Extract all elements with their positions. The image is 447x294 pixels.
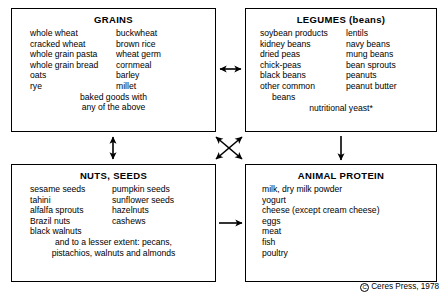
box-legumes-columns: soybean products kidney beans dried peas… (246, 28, 436, 102)
list-item: black beans (260, 70, 346, 81)
list-item: navy beans (346, 39, 431, 50)
box-nuts-seeds: NUTS, SEEDS sesame seeds tahini alfalfa … (11, 164, 216, 282)
box-nuts-seeds-column-2: pumpkin seeds sunflower seeds hazelnuts … (112, 184, 207, 226)
list-item: cracked wheat (30, 39, 116, 50)
list-item: peanuts (346, 70, 431, 81)
list-item: and to a lesser extent: pecans, (12, 237, 215, 248)
list-item: dried peas (260, 49, 346, 60)
list-item: sunflower seeds (112, 195, 207, 206)
box-legumes: LEGUMES (beans) soybean products kidney … (245, 8, 437, 132)
list-item: buckwheat (116, 28, 196, 39)
list-item: cheese (except cream cheese) (262, 205, 436, 216)
list-item: hazelnuts (112, 205, 207, 216)
list-item: cornmeal (116, 60, 196, 71)
protein-complementarity-diagram: GRAINS whole wheat cracked wheat whole g… (0, 0, 447, 294)
box-grains: GRAINS whole wheat cracked wheat whole g… (11, 8, 216, 132)
copyright-notice: CCeres Press, 1978 (360, 282, 439, 292)
list-item: sesame seeds (30, 184, 112, 195)
list-item: meat (262, 226, 436, 237)
list-item: alfalfa sprouts (30, 205, 112, 216)
list-item: any of the above (12, 102, 215, 113)
box-legumes-column-1: soybean products kidney beans dried peas… (246, 28, 346, 102)
box-legumes-title: LEGUMES (beans) (246, 14, 436, 25)
box-nuts-seeds-columns: sesame seeds tahini alfalfa sprouts Braz… (12, 184, 215, 237)
list-item: fish (262, 237, 436, 248)
box-legumes-footer: nutritional yeast* (246, 103, 436, 114)
list-item: lentils (346, 28, 431, 39)
list-item: other common (260, 81, 346, 92)
list-item: barley (116, 70, 196, 81)
list-item: Brazil nuts (30, 216, 112, 227)
list-item: brown rice (116, 39, 196, 50)
list-item: whole grain bread (30, 60, 116, 71)
box-grains-columns: whole wheat cracked wheat whole grain pa… (12, 28, 215, 92)
list-item: nutritional yeast* (246, 103, 436, 114)
box-grains-column-1: whole wheat cracked wheat whole grain pa… (12, 28, 116, 92)
list-item: whole grain pasta (30, 49, 116, 60)
list-item: baked goods with (12, 92, 215, 103)
box-nuts-seeds-title: NUTS, SEEDS (12, 170, 215, 181)
list-item: rye (30, 81, 116, 92)
list-item: peanut butter (346, 81, 431, 92)
list-item: milk, dry milk powder (262, 184, 436, 195)
list-item: eggs (262, 216, 436, 227)
list-item: black walnuts (30, 226, 112, 237)
copyright-text: Ceres Press, 1978 (371, 282, 439, 291)
list-item: chick-peas (260, 60, 346, 71)
list-item: cashews (112, 216, 207, 227)
list-item: kidney beans (260, 39, 346, 50)
list-item: tahini (30, 195, 112, 206)
list-item: mung beans (346, 49, 431, 60)
box-grains-title: GRAINS (12, 14, 215, 25)
arrow-nuts-legumes (216, 137, 242, 159)
box-grains-column-2: buckwheat brown rice wheat germ cornmeal… (116, 28, 196, 92)
list-item: beans (260, 92, 346, 103)
copyright-symbol-icon: C (360, 283, 369, 292)
list-item: soybean products (260, 28, 346, 39)
list-item: millet (116, 81, 196, 92)
box-legumes-column-2: lentils navy beans mung beans bean sprou… (346, 28, 431, 92)
list-item: wheat germ (116, 49, 196, 60)
list-item: yogurt (262, 195, 436, 206)
list-item: poultry (262, 248, 436, 259)
list-item: whole wheat (30, 28, 116, 39)
box-animal-protein: ANIMAL PROTEIN milk, dry milk powder yog… (245, 164, 437, 282)
box-animal-protein-title: ANIMAL PROTEIN (246, 170, 436, 181)
list-item: pumpkin seeds (112, 184, 207, 195)
box-nuts-seeds-footer: and to a lesser extent: pecans, pistachi… (12, 237, 215, 258)
list-item: pistachios, walnuts and almonds (12, 248, 215, 259)
list-item: bean sprouts (346, 60, 431, 71)
box-nuts-seeds-column-1: sesame seeds tahini alfalfa sprouts Braz… (12, 184, 112, 237)
box-animal-protein-column-1: milk, dry milk powder yogurt cheese (exc… (246, 184, 436, 258)
list-item: oats (30, 70, 116, 81)
box-grains-footer: baked goods with any of the above (12, 92, 215, 113)
arrow-grains-animal (216, 137, 242, 159)
